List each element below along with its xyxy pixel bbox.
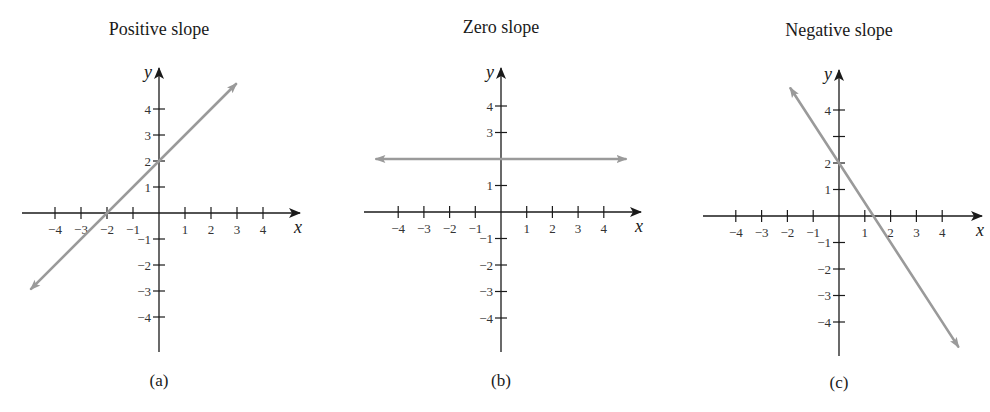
y-tick-label: −1 <box>817 235 831 250</box>
y-tick-label: 4 <box>145 102 152 117</box>
y-tick-label: −3 <box>137 284 151 299</box>
x-tick-label: 3 <box>913 225 920 240</box>
y-tick-label: 2 <box>145 154 152 169</box>
y-tick-label: −2 <box>479 258 493 273</box>
x-tick-label: 4 <box>939 225 946 240</box>
panel-positive-slope: Positive slope−4−3−2−11234−4−3−2−11234xy… <box>22 19 302 390</box>
x-tick-label: 4 <box>601 221 608 236</box>
x-tick-label: −4 <box>48 222 62 237</box>
x-tick-label: −3 <box>755 225 769 240</box>
y-tick-label: −4 <box>479 311 493 326</box>
x-tick-label: 3 <box>234 222 241 237</box>
x-tick-label: −2 <box>100 222 114 237</box>
x-axis-label: x <box>293 217 302 237</box>
y-tick-label: −4 <box>817 315 831 330</box>
chart-title: Positive slope <box>109 19 210 39</box>
x-tick-label: −2 <box>443 221 457 236</box>
y-tick-label: 1 <box>145 180 152 195</box>
y-tick-label: −4 <box>137 310 151 325</box>
x-tick-label: −4 <box>391 221 405 236</box>
y-tick-label: 1 <box>825 182 832 197</box>
chart-caption: (a) <box>150 371 169 390</box>
x-tick-label: 1 <box>523 221 530 236</box>
x-axis-label: x <box>634 216 643 236</box>
x-tick-label: 1 <box>862 225 869 240</box>
x-tick-label: −4 <box>729 225 743 240</box>
chart-title: Zero slope <box>463 17 539 37</box>
y-tick-label: 3 <box>487 125 494 140</box>
y-axis-label: y <box>142 62 152 82</box>
y-axis-label: y <box>822 64 832 84</box>
y-tick-label: −1 <box>137 232 151 247</box>
y-tick-label: 4 <box>825 103 832 118</box>
x-tick-label: 3 <box>575 221 582 236</box>
y-tick-label: −2 <box>817 262 831 277</box>
plot-line <box>31 84 236 289</box>
y-tick-label: 2 <box>825 156 832 171</box>
y-tick-label: −1 <box>479 231 493 246</box>
x-tick-label: 1 <box>182 222 189 237</box>
y-tick-label: −2 <box>137 258 151 273</box>
panel-negative-slope: Negative slope−4−3−2−11234−4−3−2−1124xy(… <box>703 20 984 392</box>
chart-caption: (b) <box>491 371 511 390</box>
x-tick-label: 4 <box>260 222 267 237</box>
y-axis-label: y <box>484 62 494 82</box>
y-tick-label: 1 <box>487 178 494 193</box>
chart-title: Negative slope <box>785 20 892 40</box>
x-tick-label: 2 <box>549 221 556 236</box>
y-tick-label: −3 <box>479 284 493 299</box>
slope-figure: Positive slope−4−3−2−11234−4−3−2−11234xy… <box>0 0 990 412</box>
panel-zero-slope: Zero slope−4−3−2−11234−4−3−2−1134xy(b) <box>364 17 643 390</box>
y-tick-label: 4 <box>487 99 494 114</box>
x-tick-label: −2 <box>780 225 794 240</box>
plot-line <box>791 88 959 346</box>
x-axis-label: x <box>975 220 984 240</box>
x-tick-label: −3 <box>417 221 431 236</box>
y-tick-label: −3 <box>817 288 831 303</box>
chart-caption: (c) <box>830 373 849 392</box>
x-tick-label: 2 <box>208 222 215 237</box>
y-tick-label: 3 <box>145 128 152 143</box>
